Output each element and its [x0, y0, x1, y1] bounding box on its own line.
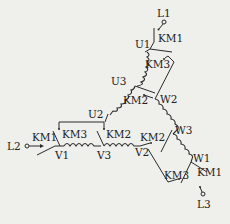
winding-w3-w1	[173, 134, 193, 162]
terminal-l1	[158, 20, 167, 31]
contactor-km2-left	[97, 131, 104, 146]
label-v2: V2	[134, 146, 149, 158]
terminal-l2	[25, 144, 44, 148]
label-km1-left: KM1	[32, 131, 57, 143]
label-w3: W3	[175, 124, 192, 136]
terminal-l1-circle	[162, 20, 166, 24]
contactor-km1-top	[150, 28, 154, 49]
label-l2: L2	[7, 140, 21, 152]
label-km3-top: KM3	[145, 58, 170, 70]
label-u3: U3	[111, 75, 127, 87]
terminal-l3	[199, 186, 205, 196]
label-v3: V3	[96, 149, 111, 161]
label-km3-bottom: KM3	[164, 169, 189, 181]
terminal-l1-dot	[158, 29, 160, 31]
label-km1-bottom: KM1	[197, 166, 222, 178]
label-u2: U2	[88, 108, 104, 120]
label-l3: L3	[197, 198, 211, 210]
label-km2-right: KM2	[140, 131, 165, 143]
circuit-svg: L1 KM1 U1 KM3 U3 KM2 W2 U2 KM3 KM2 KM2 W…	[0, 0, 230, 224]
label-km1-top: KM1	[158, 32, 183, 44]
wiring-diagram: L1 KM1 U1 KM3 U3 KM2 W2 U2 KM3 KM2 KM2 W…	[0, 0, 230, 224]
label-w2: W2	[160, 93, 177, 105]
winding-v1-v3	[64, 144, 101, 147]
label-v1: V1	[54, 149, 69, 161]
label-km2-left: KM2	[106, 128, 131, 140]
label-km2-center: KM2	[123, 94, 148, 106]
label-l1: L1	[157, 7, 171, 19]
label-km3-left: KM3	[62, 128, 87, 140]
label-u1: U1	[135, 38, 151, 50]
contactor-km1-left	[37, 146, 55, 155]
label-w1: W1	[193, 152, 210, 164]
